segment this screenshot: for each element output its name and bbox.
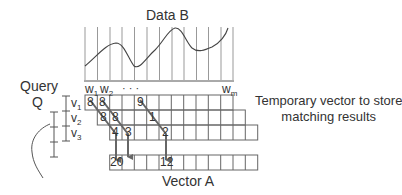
vector-a-label: Vector A xyxy=(162,173,214,189)
cell-v3-3: 2 xyxy=(162,125,169,139)
temp-vector-label: Temporary vector to store matching resul… xyxy=(255,93,402,125)
segment-ruler xyxy=(62,96,70,141)
cell-v2-1: 8 xyxy=(112,110,119,124)
wm-sub: m xyxy=(231,89,238,98)
cell-v1-4: 9 xyxy=(137,95,144,109)
segment-label-v2: v2 xyxy=(71,111,81,127)
window-label-wm: wm xyxy=(222,82,237,98)
temp-vector-label-line1: Temporary vector to store xyxy=(255,93,402,109)
query-symbol: Q xyxy=(32,94,43,110)
w1-base: w xyxy=(85,82,94,96)
cell-v3-0: 4 xyxy=(112,125,119,139)
w2-base: w xyxy=(100,82,109,96)
query-bracket-curve xyxy=(32,124,50,178)
data-b-title: Data B xyxy=(146,7,189,23)
cell-v3-1: 3 xyxy=(125,125,132,139)
query-label: Query xyxy=(20,78,58,94)
wm-base: w xyxy=(222,82,231,96)
vector-a-cell-0: 20 xyxy=(110,155,123,169)
vector-a-cell-3: 12 xyxy=(160,155,173,169)
cell-v2-0: 8 xyxy=(100,110,107,124)
cell-v1-0: 8 xyxy=(87,95,94,109)
v3-sub: 3 xyxy=(77,133,81,142)
data-b-curve xyxy=(85,28,228,67)
w1-sub: 1 xyxy=(94,89,98,98)
cell-v1-1: 8 xyxy=(99,95,106,109)
window-label-dots: · · · xyxy=(122,82,139,94)
vector-a-row xyxy=(110,155,258,170)
cell-v2-3: 1 xyxy=(149,110,156,124)
data-b-window-lines xyxy=(85,27,233,80)
w2-sub: 2 xyxy=(109,89,113,98)
temp-vector-label-line2: matching results xyxy=(255,109,402,125)
segment-label-v1: v1 xyxy=(71,96,81,112)
segment-label-v3: v3 xyxy=(71,126,81,142)
query-ruler xyxy=(50,112,58,157)
